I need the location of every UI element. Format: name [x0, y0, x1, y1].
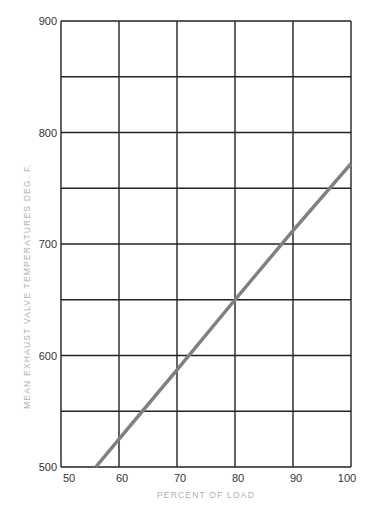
x-tick-label: 90 — [290, 472, 302, 484]
y-axis-ticks: 500600700800900 — [39, 15, 57, 473]
x-tick-label: 80 — [232, 472, 244, 484]
data-series — [96, 164, 351, 467]
y-tick-label: 700 — [39, 238, 57, 250]
grid-lines — [61, 21, 351, 467]
x-tick-label: 50 — [63, 472, 75, 484]
x-tick-label: 100 — [338, 472, 356, 484]
x-axis-label: PERCENT OF LOAD — [157, 490, 255, 500]
line-chart: 500600700800900 5060708090100 PERCENT OF… — [0, 0, 370, 506]
y-tick-label: 500 — [39, 461, 57, 473]
y-tick-label: 600 — [39, 350, 57, 362]
y-tick-label: 800 — [39, 127, 57, 139]
y-axis-label: MEAN EXHAUST VALVE TEMPERATURES DEG. F. — [22, 163, 32, 409]
series-line — [96, 164, 351, 467]
x-axis-ticks: 5060708090100 — [63, 472, 356, 484]
x-tick-label: 60 — [116, 472, 128, 484]
x-tick-label: 70 — [174, 472, 186, 484]
y-tick-label: 900 — [39, 15, 57, 27]
